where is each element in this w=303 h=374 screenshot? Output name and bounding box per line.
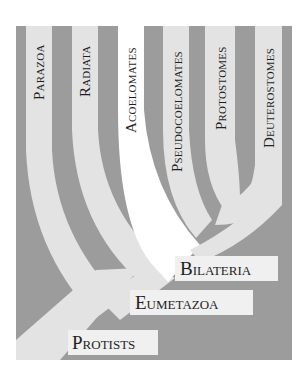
label-parazoa: Parazoa <box>31 44 47 100</box>
label-radiata: Radiata <box>77 46 93 97</box>
label-eumetazoa: Eumetazoa <box>135 292 219 313</box>
label-protists: Protists <box>72 332 135 353</box>
label-deuterostomes: Deuterostomes <box>261 48 277 148</box>
label-bilateria: Bilateria <box>180 258 252 279</box>
label-protostomes: Protostomes <box>213 47 229 131</box>
label-acoelomates: Acoelomates <box>123 47 139 133</box>
label-pseudocoelomates: Pseudocoelomates <box>169 51 185 172</box>
phylogenetic-tree: Parazoa Radiata Acoelomates Pseudocoelom… <box>0 0 303 374</box>
